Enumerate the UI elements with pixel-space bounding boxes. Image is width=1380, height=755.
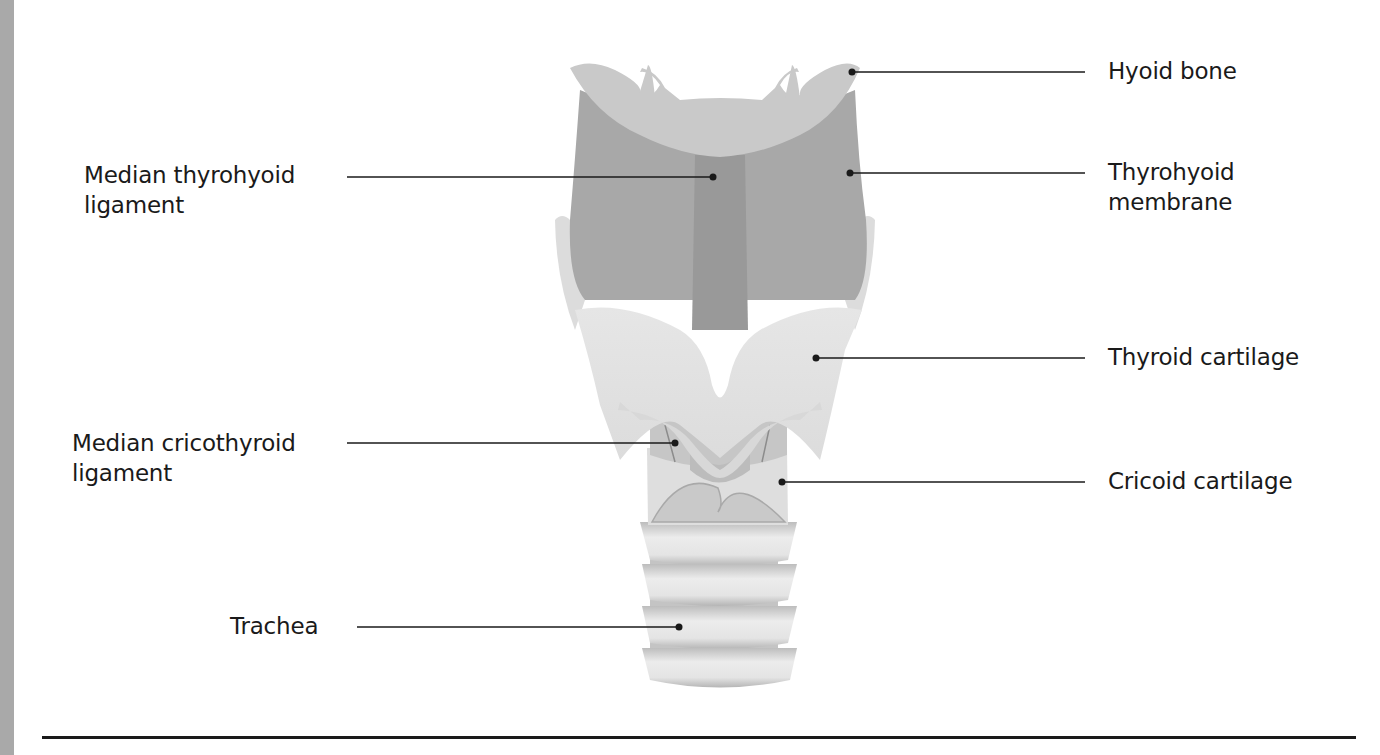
trachea <box>640 510 797 688</box>
median-thyrohyoid-ligament <box>692 155 748 330</box>
label-thyrohyoid-membrane: Thyrohyoid membrane <box>1108 157 1235 217</box>
label-thyroid-cartilage: Thyroid cartilage <box>1108 342 1299 372</box>
label-cricoid-cartilage: Cricoid cartilage <box>1108 466 1292 496</box>
label-trachea: Trachea <box>230 611 318 641</box>
label-median-thyrohyoid-ligament: Median thyrohyoid ligament <box>84 160 295 220</box>
label-median-cricothyroid-ligament: Median cricothyroid ligament <box>72 428 296 488</box>
thyroid-cartilage <box>575 308 862 479</box>
larynx-illustration <box>0 0 1380 755</box>
bottom-rule <box>42 736 1356 739</box>
label-hyoid-bone: Hyoid bone <box>1108 56 1237 86</box>
